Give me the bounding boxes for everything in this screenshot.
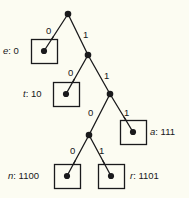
- label-e: e: 0: [3, 46, 19, 56]
- tree-diagram-canvas: [0, 0, 189, 198]
- edge-bit-label-n1-leaf_t: 0: [68, 68, 73, 78]
- edge-bit-label-n2-n3: 0: [88, 108, 93, 118]
- label-a-code: : 111: [155, 126, 175, 137]
- edge-bit-label-n3-leaf_n: 0: [70, 146, 75, 156]
- tree-node-root: [65, 11, 72, 18]
- huffman-tree-figure: 01010101 e: 0t: 10a: 111n: 1100r: 1101: [0, 0, 189, 198]
- tree-node-leaf_r: [108, 173, 114, 179]
- tree-node-n2: [107, 91, 114, 98]
- label-t-code: : 10: [26, 88, 42, 99]
- tree-node-n1: [85, 52, 92, 59]
- edge-bit-label-n2-leaf_a: 1: [124, 108, 129, 118]
- label-n: n: 1100: [8, 171, 39, 181]
- tree-node-leaf_n: [64, 173, 70, 179]
- label-a: a: 111: [150, 127, 175, 137]
- label-r: r: 1101: [130, 171, 159, 181]
- label-t: t: 10: [23, 89, 42, 99]
- label-n-code: : 1100: [13, 170, 39, 181]
- label-e-code: : 0: [8, 45, 19, 56]
- tree-node-leaf_a: [130, 129, 136, 135]
- label-r-code: : 1101: [133, 170, 159, 181]
- edge-bit-label-root-n1: 1: [83, 30, 88, 40]
- edge-bit-label-n3-leaf_r: 1: [99, 146, 104, 156]
- edge-bit-label-root-leaf_e: 0: [46, 26, 51, 36]
- tree-node-leaf_e: [41, 48, 47, 54]
- edge-bit-label-n1-n2: 1: [104, 71, 109, 81]
- tree-node-n3: [86, 132, 93, 139]
- tree-node-leaf_t: [63, 91, 69, 97]
